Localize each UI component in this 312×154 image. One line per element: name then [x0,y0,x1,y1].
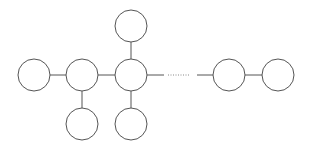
node-n4 [115,10,147,42]
node-n3 [115,59,147,91]
node-n1 [18,59,50,91]
node-n8 [262,59,294,91]
tree-diagram [0,0,312,154]
node-n6 [115,108,147,140]
node-n7 [213,59,245,91]
node-n2 [66,59,98,91]
node-n5 [66,108,98,140]
